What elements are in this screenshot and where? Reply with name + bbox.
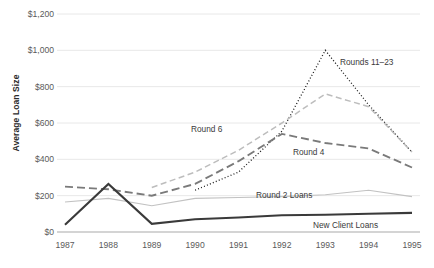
series-label: New Client Loans xyxy=(313,220,378,230)
series-label: Rounds 11–23 xyxy=(340,57,393,67)
x-tick-label: 1990 xyxy=(173,240,217,250)
series-label: Round 4 xyxy=(293,147,324,157)
x-tick-label: 1991 xyxy=(217,240,261,250)
series-line xyxy=(152,94,412,188)
series-label: Round 2 Loans xyxy=(256,190,312,200)
x-tick-label: 1995 xyxy=(390,240,434,250)
chart-container: Average Loan Size $0$200$400$600$800$1,0… xyxy=(0,0,434,268)
y-tick-label: $200 xyxy=(8,191,54,201)
x-tick-label: 1994 xyxy=(347,240,391,250)
y-tick-label: $1,000 xyxy=(8,45,54,55)
y-tick-label: $1,200 xyxy=(8,9,54,19)
series-label: Round 6 xyxy=(191,124,222,134)
y-axis-tick-labels: $0$200$400$600$800$1,000$1,200 xyxy=(0,0,54,268)
y-tick-label: $0 xyxy=(8,227,54,237)
gridlines xyxy=(57,14,420,196)
series-line xyxy=(65,134,412,196)
y-tick-label: $400 xyxy=(8,154,54,164)
x-tick-label: 1992 xyxy=(260,240,304,250)
series-line xyxy=(195,50,412,190)
y-tick-label: $800 xyxy=(8,82,54,92)
y-tick-label: $600 xyxy=(8,118,54,128)
series-paths xyxy=(65,50,412,224)
x-tick-label: 1987 xyxy=(43,240,87,250)
x-tick-label: 1993 xyxy=(303,240,347,250)
x-tick-label: 1989 xyxy=(130,240,174,250)
x-tick-label: 1988 xyxy=(86,240,130,250)
